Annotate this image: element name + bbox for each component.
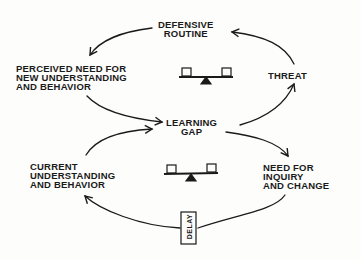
arrow-need-to-delay: [198, 195, 285, 228]
arrow-threat-to-defensive: [232, 32, 294, 64]
arrow-defensive-to-perceived: [90, 28, 152, 55]
arrow-learning-to-threat: [240, 84, 294, 125]
node-threat: THREAT: [268, 71, 307, 80]
arrow-delay-to-current: [85, 196, 180, 228]
node-need-for-inquiry: NEED FOR INQUIRY AND CHANGE: [263, 163, 329, 190]
delay-label: DELAY: [186, 212, 193, 242]
node-current-understanding: CURRENT UNDERSTANDING AND BEHAVIOR: [30, 162, 115, 189]
node-learning-gap: LEARNING GAP: [166, 118, 217, 136]
causal-loop-diagram: DEFENSIVE ROUTINE PERCEIVED NEED FOR NEW…: [0, 0, 361, 260]
arrow-perceived-to-learning: [87, 96, 162, 122]
arrow-learning-to-need: [226, 132, 288, 156]
arrow-current-to-learning: [86, 129, 152, 155]
balance-seesaw-icon-upper: [179, 68, 233, 84]
balance-seesaw-icon-lower: [164, 164, 218, 181]
node-perceived-need: PERCEIVED NEED FOR NEW UNDERSTANDING AND…: [16, 64, 127, 91]
node-defensive-routine: DEFENSIVE ROUTINE: [158, 20, 214, 38]
